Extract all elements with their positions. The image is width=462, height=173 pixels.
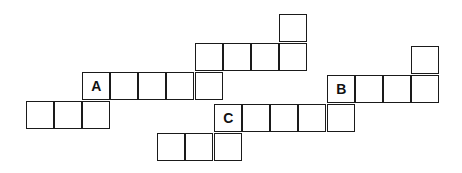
grid-cell[interactable] xyxy=(355,75,383,103)
grid-cell[interactable] xyxy=(166,72,194,100)
grid-cell[interactable] xyxy=(298,104,326,132)
grid-cell[interactable] xyxy=(242,104,270,132)
grid-cell-c[interactable]: C xyxy=(214,104,242,132)
grid-cell[interactable] xyxy=(157,133,185,161)
grid-cell-b[interactable]: B xyxy=(327,75,355,103)
grid-cell[interactable] xyxy=(54,101,82,129)
grid-cell[interactable] xyxy=(251,43,279,71)
cell-label: A xyxy=(83,73,109,99)
grid-cell[interactable] xyxy=(138,72,166,100)
grid-cell[interactable] xyxy=(185,133,213,161)
grid-cell[interactable] xyxy=(270,104,298,132)
grid-cell[interactable] xyxy=(411,75,439,103)
grid-cell[interactable] xyxy=(279,43,307,71)
grid-cell[interactable] xyxy=(383,75,411,103)
grid-cell[interactable] xyxy=(26,101,54,129)
grid-cell[interactable] xyxy=(195,72,223,100)
grid-cell[interactable] xyxy=(214,133,242,161)
cell-label: C xyxy=(215,105,241,131)
grid-cell[interactable] xyxy=(279,14,307,42)
grid-cell[interactable] xyxy=(82,101,110,129)
grid-cell[interactable] xyxy=(223,43,251,71)
grid-cell[interactable] xyxy=(411,46,439,74)
grid-cell[interactable] xyxy=(195,43,223,71)
grid-cell-a[interactable]: A xyxy=(82,72,110,100)
cell-label: B xyxy=(328,76,354,102)
grid-cell[interactable] xyxy=(110,72,138,100)
grid-cell[interactable] xyxy=(327,104,355,132)
